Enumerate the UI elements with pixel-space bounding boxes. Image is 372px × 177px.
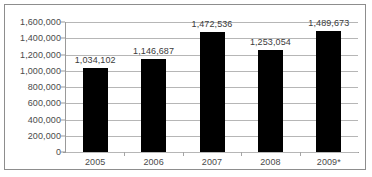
x-axis-category-label: 2005 (85, 157, 105, 167)
bar-value-label: 1,489,673 (308, 18, 349, 28)
x-axis-tick-mark (300, 152, 301, 156)
y-axis-tick-label: 1,600,000 (20, 17, 61, 27)
x-axis-category-label: 2008 (260, 157, 280, 167)
y-axis-tick-mark (61, 152, 65, 153)
bar[interactable] (316, 31, 341, 152)
y-axis-tick-label: 1,000,000 (20, 66, 61, 76)
y-axis-tick-mark (61, 87, 65, 88)
bar-value-label: 1,146,687 (133, 46, 174, 56)
chart-frame: 1,600,0001,400,0001,200,0001,000,000800,… (4, 4, 366, 170)
y-axis-tick-mark (61, 135, 65, 136)
y-axis-tick-label: 200,000 (28, 131, 61, 141)
y-axis-tick-mark (61, 22, 65, 23)
x-axis-tick-mark (183, 152, 184, 156)
y-axis-tick-mark (61, 103, 65, 104)
y-axis-tick-mark (61, 54, 65, 55)
y-axis-tick-label: 400,000 (28, 115, 61, 125)
bar-value-label: 1,472,536 (192, 19, 233, 29)
bar-value-label: 1,034,102 (75, 55, 116, 65)
x-axis-category-label: 2009* (317, 157, 341, 167)
y-axis-tick-label: 600,000 (28, 98, 61, 108)
y-axis-tick-label: 800,000 (28, 82, 61, 92)
y-axis-label-group: 1,600,0001,400,0001,200,0001,000,000800,… (5, 22, 61, 153)
plot-area (66, 22, 358, 152)
bar[interactable] (83, 68, 108, 152)
gridline (66, 152, 358, 153)
bar[interactable] (200, 32, 225, 152)
y-axis-tick-mark (61, 119, 65, 120)
x-axis-category-label: 2006 (143, 157, 163, 167)
bar[interactable] (141, 59, 166, 152)
y-axis-tick-label: 1,200,000 (20, 50, 61, 60)
bar-value-label: 1,253,054 (250, 37, 291, 47)
x-axis-tick-mark (124, 152, 125, 156)
y-axis-tick-mark (61, 70, 65, 71)
bar[interactable] (258, 50, 283, 152)
y-axis-tick-label: 1,400,000 (20, 33, 61, 43)
x-axis-tick-mark (241, 152, 242, 156)
x-axis-category-label: 2007 (202, 157, 222, 167)
y-axis-tick-mark (61, 38, 65, 39)
